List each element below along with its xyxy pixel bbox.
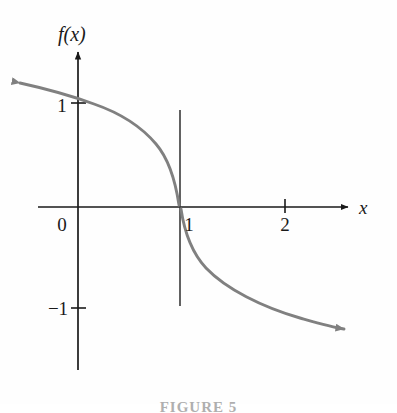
- y-tick-1-label: 1: [57, 95, 67, 116]
- x-tick-2-label: 2: [280, 214, 290, 235]
- curve-upper-branch: [20, 83, 179, 205]
- curve-lower-branch: [181, 209, 344, 329]
- origin-label: 0: [57, 214, 67, 235]
- y-tick-neg1-label: −1: [48, 298, 68, 319]
- x-axis-name-label: x: [358, 197, 368, 218]
- x-tick-1-label: 1: [184, 214, 194, 235]
- y-axis-function-label: f(x): [58, 23, 86, 46]
- figure-caption: FIGURE 5: [0, 399, 397, 413]
